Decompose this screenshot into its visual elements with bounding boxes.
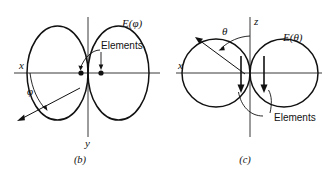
panel-c: Elements x z θ E(θ) (c): [176, 15, 322, 166]
panel-c-theta-arc: [221, 36, 250, 49]
panel-c-z-axis-label: z: [253, 15, 259, 27]
radiation-pattern-figure: Elements x y φ E(φ) (b): [0, 0, 332, 170]
panel-c-field-label: E(θ): [282, 31, 303, 44]
panel-b-y-axis-label: y: [84, 137, 90, 149]
panel-c-leader-right: [269, 90, 272, 113]
panel-c-element-arrow-left-head: [238, 85, 245, 94]
panel-b-field-label: E(φ): [121, 17, 142, 30]
panel-c-theta-ray: [199, 40, 245, 74]
panel-b: Elements x y φ E(φ) (b): [14, 17, 160, 166]
panel-b-leader-right-arrowhead: [99, 65, 104, 70]
panel-b-phi-ray-arrowhead: [17, 115, 25, 121]
panel-b-element-dot-left: [78, 70, 83, 75]
panel-c-theta-angle-label: θ: [222, 25, 228, 37]
panel-b-caption: (b): [74, 154, 87, 166]
panel-c-caption: (c): [239, 154, 251, 166]
panel-b-phi-angle-label: φ: [27, 85, 33, 97]
panel-b-elements-label: Elements: [101, 40, 143, 51]
panel-c-element-arrow-right-head: [261, 85, 268, 94]
panel-b-leader-left-arrowhead: [78, 66, 83, 71]
panel-b-element-dot-right: [98, 70, 103, 75]
panel-b-x-axis-label: x: [18, 59, 24, 71]
panel-c-elements-label: Elements: [274, 112, 316, 123]
panel-c-x-axis-label: x: [177, 59, 183, 71]
figure-root: Elements x y φ E(φ) (b): [0, 0, 332, 170]
panel-c-theta-arc-arrowhead: [219, 46, 225, 51]
